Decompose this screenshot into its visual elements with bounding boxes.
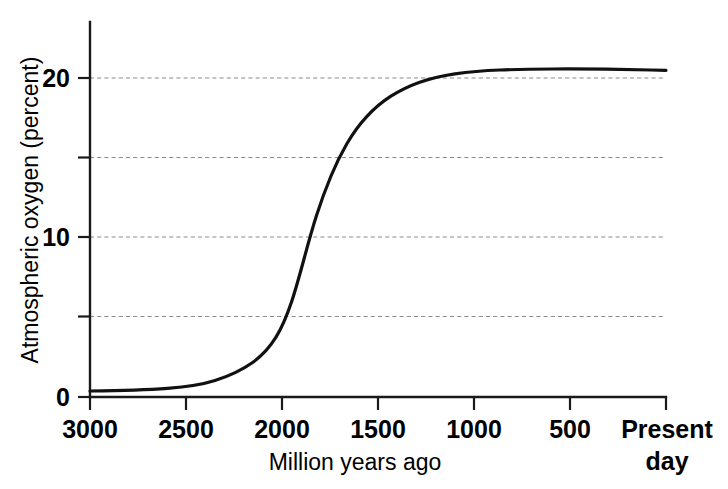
oxygen-curve bbox=[90, 69, 666, 391]
x-tick-label-1000: 1000 bbox=[446, 415, 502, 443]
y-tick-label-20: 20 bbox=[42, 64, 70, 92]
y-axis-title: Atmospheric oxygen (percent) bbox=[17, 57, 43, 364]
y-tick-label-10: 10 bbox=[42, 223, 70, 251]
x-tick-label-1500: 1500 bbox=[350, 415, 406, 443]
x-tick-label-2000: 2000 bbox=[254, 415, 310, 443]
x-tick-label-present-day: day bbox=[645, 447, 688, 475]
x-tick-label-500: 500 bbox=[549, 415, 591, 443]
y-tick-label-0: 0 bbox=[56, 383, 70, 411]
x-tick-label-2500: 2500 bbox=[158, 415, 214, 443]
y-tick-marks bbox=[78, 78, 90, 397]
x-tick-marks bbox=[90, 397, 666, 410]
chart-canvas: 20 10 0 3000 2500 2000 1500 1000 500 Pre… bbox=[0, 0, 728, 489]
x-tick-label-present: Present bbox=[621, 415, 713, 443]
x-axis-title: Million years ago bbox=[269, 449, 442, 475]
gridlines bbox=[90, 78, 666, 317]
oxygen-chart-figure: 20 10 0 3000 2500 2000 1500 1000 500 Pre… bbox=[0, 0, 728, 489]
y-tick-labels: 20 10 0 bbox=[42, 64, 70, 411]
x-tick-label-3000: 3000 bbox=[62, 415, 118, 443]
